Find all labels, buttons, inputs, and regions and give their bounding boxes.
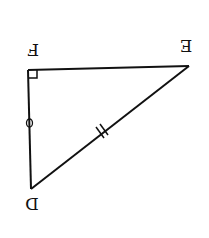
right-angle-marker	[29, 70, 37, 78]
side-FE	[28, 66, 189, 70]
vertex-label-F: F	[27, 40, 39, 60]
triangle-diagram: F E D	[0, 0, 209, 238]
vertex-label-E: E	[180, 36, 192, 56]
side-FD	[28, 70, 31, 189]
side-DE	[31, 66, 189, 189]
vertex-label-D: D	[25, 194, 39, 214]
